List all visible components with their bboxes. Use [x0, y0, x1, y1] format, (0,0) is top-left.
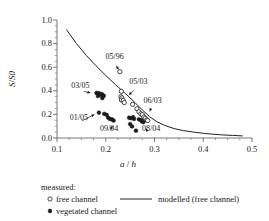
legend-measured-label: measured: — [41, 183, 76, 192]
y-tick-label: 0.2 — [26, 110, 52, 119]
data-annotation-label: 05/96 — [103, 53, 127, 61]
data-annotation-label: 01/05 — [67, 114, 91, 122]
y-tick-label: 0.8 — [26, 39, 52, 48]
x-tick-label: 0.5 — [242, 145, 262, 154]
data-annotation-label: 03/05 — [68, 82, 92, 90]
x-tick-label: 0.2 — [96, 145, 116, 154]
x-tick-label: 0.1 — [47, 145, 67, 154]
data-annotation-label: 05/03 — [126, 78, 150, 86]
data-annotation-label: 09/04 — [97, 125, 121, 133]
legend-free-channel-label: free channel — [56, 195, 98, 204]
y-axis-title: S/S0 — [7, 59, 17, 99]
data-annotation-label: 06/03 — [141, 97, 165, 105]
model-curve — [67, 30, 243, 136]
x-axis-title: a / h — [120, 160, 136, 169]
y-tick-label: 0.0 — [26, 134, 52, 143]
x-tick-label: 0.4 — [193, 145, 213, 154]
legend-modelled-label: modelled (free channel) — [158, 195, 239, 204]
y-tick-label: 0.4 — [26, 86, 52, 95]
legend-vegetated-channel-label: vegetated channel — [56, 207, 117, 216]
y-tick-label: 1.0 — [26, 16, 52, 25]
x-tick-label: 0.3 — [145, 145, 165, 154]
y-axis-title-wrap: S/S0 — [4, 60, 20, 100]
x-axis-denominator: h — [132, 159, 137, 169]
data-annotation-label: 08/04 — [139, 125, 163, 133]
chart-figure: S/S0 a / h 0.10.20.30.40.5 0.00.20.40.60… — [0, 0, 269, 221]
y-tick-label: 0.6 — [26, 63, 52, 72]
